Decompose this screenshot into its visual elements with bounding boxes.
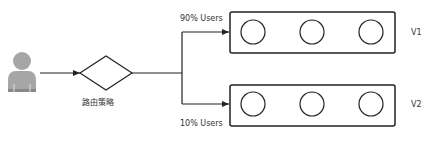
- group-v2: [230, 85, 395, 126]
- group-v1: [230, 12, 395, 53]
- branch-v1-label: 90% Users: [180, 14, 223, 23]
- group-v2-label: V2: [411, 100, 422, 109]
- group-v1-label: V1: [411, 28, 422, 37]
- router-label: 路由策略: [82, 96, 114, 107]
- router-diamond: [80, 56, 132, 90]
- branch-v2-label: 10% Users: [180, 119, 223, 128]
- user-avatar-icon: [8, 52, 36, 92]
